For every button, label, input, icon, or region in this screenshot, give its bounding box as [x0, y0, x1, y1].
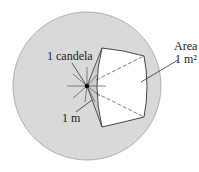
area-value-label: 1 m² [175, 53, 197, 66]
radius-label: 1 m [62, 112, 80, 125]
candela-label: 1 candela [47, 50, 93, 63]
candela-diagram: 1 candela 1 m Area 1 m² [0, 0, 199, 172]
point-source [85, 84, 90, 89]
area-patch [97, 48, 147, 127]
diagram-graphic [0, 0, 199, 172]
